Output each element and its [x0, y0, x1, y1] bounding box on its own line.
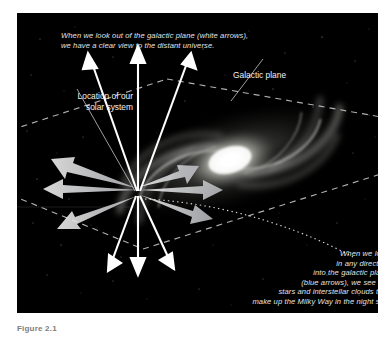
caption-white-arrows: When we look out of the galactic plane (… [61, 31, 311, 50]
figure-caption: Figure 2.1 [17, 324, 217, 338]
illustration-panel: When we look out of the galactic plane (… [17, 13, 378, 313]
figure-root: When we look out of the galactic plane (… [0, 0, 387, 338]
caption-blue-arrows: When we look in any direction into the g… [189, 249, 378, 306]
label-galactic-plane: Galactic plane [233, 70, 343, 81]
label-solar-system: Location of our solar system [25, 91, 133, 113]
